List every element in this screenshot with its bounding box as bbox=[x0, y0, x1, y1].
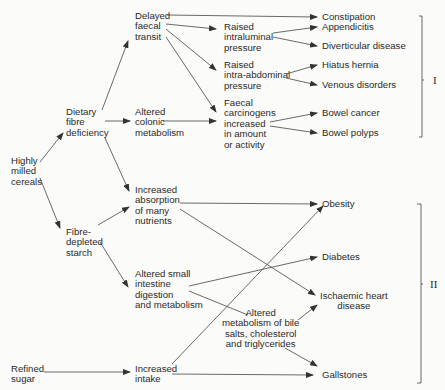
node-refined-sugar: Refined sugar bbox=[11, 364, 44, 385]
node-dietary-fibre-deficiency: Dietary fibre deficiency bbox=[66, 107, 109, 138]
node-altered-bile-metabolism: Altered metabolism of bile salts, choles… bbox=[222, 308, 299, 350]
node-faecal-carcinogens: Faecal carcinogens increased in amount o… bbox=[224, 98, 276, 150]
node-increased-absorption: Increased absorption of many nutrients bbox=[135, 185, 180, 227]
outcome-gallstones: Gallstones bbox=[322, 370, 367, 380]
node-altered-colonic-metabolism: Altered colonic metabolism bbox=[135, 107, 184, 138]
node-raised-intraluminal-pressure: Raised intraluminal pressure bbox=[224, 22, 273, 53]
outcome-diabetes: Diabetes bbox=[322, 252, 360, 262]
outcome-hiatus-hernia: Hiatus hernia bbox=[322, 60, 379, 70]
outcome-obesity: Obesity bbox=[322, 199, 355, 209]
outcome-ischaemic-heart-disease: Ischaemic heart disease bbox=[320, 291, 388, 312]
node-delayed-faecal-transit: Delayed faecal transit bbox=[135, 11, 170, 42]
group-label-i: I bbox=[433, 74, 437, 86]
node-increased-intake: Increased intake bbox=[135, 364, 177, 385]
outcome-appendicitis: Appendicitis bbox=[322, 22, 374, 32]
node-highly-milled-cereals: Highly milled cereals bbox=[11, 156, 42, 187]
outcome-bowel-polyps: Bowel polyps bbox=[322, 128, 379, 138]
node-altered-small-intestine: Altered small intestine digestion and me… bbox=[135, 269, 203, 311]
node-raised-intra-abdominal-pressure: Raised intra-abdominal pressure bbox=[224, 60, 290, 91]
outcome-bowel-cancer: Bowel cancer bbox=[322, 108, 380, 118]
outcome-diverticular-disease: Diverticular disease bbox=[322, 41, 406, 51]
causal-diagram: Highly milled cereals Dietary fibre defi… bbox=[0, 0, 445, 390]
group-label-ii: II bbox=[430, 278, 437, 290]
node-fibre-depleted-starch: Fibre- depleted starch bbox=[66, 227, 103, 258]
outcome-venous-disorders: Venous disorders bbox=[322, 80, 396, 90]
